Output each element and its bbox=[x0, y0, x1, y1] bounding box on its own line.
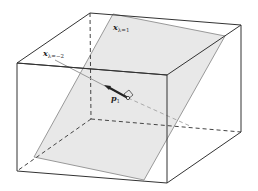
ray-label: xλ=−2 bbox=[42, 48, 64, 59]
diagram-canvas: xλ=1 xλ=−2 p1 bbox=[0, 0, 258, 191]
point-marker bbox=[126, 96, 129, 99]
